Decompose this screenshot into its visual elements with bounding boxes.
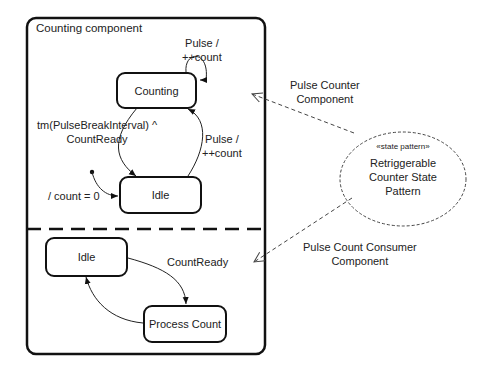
- state-label: Counting: [134, 85, 178, 97]
- idle-to-counting-transition: [188, 109, 203, 176]
- initial-transition-label: / count = 0: [48, 189, 100, 203]
- self-loop-label: Pulse / ++count: [182, 36, 222, 64]
- state-idle-lower[interactable]: Idle: [45, 237, 128, 277]
- counting-to-idle-label: tm(PulseBreakInterval) ^ CountReady: [37, 118, 157, 146]
- idle-to-counting-label: Pulse / ++count: [202, 132, 242, 160]
- lower-role-label: Pulse Count Consumer Component: [303, 240, 417, 268]
- state-label: Idle: [78, 251, 96, 263]
- pattern-stereotype: «state pattern»: [340, 142, 466, 152]
- state-label: Process Count: [149, 318, 221, 330]
- process-to-idle-transition: [86, 277, 143, 323]
- state-label: Idle: [152, 189, 170, 201]
- pattern-name: Retriggerable Counter State Pattern: [340, 156, 466, 198]
- component-title: Counting component: [36, 21, 142, 35]
- state-process-count[interactable]: Process Count: [143, 305, 227, 343]
- upper-role-label: Pulse Counter Component: [290, 78, 360, 106]
- state-counting[interactable]: Counting: [116, 72, 197, 109]
- state-idle-upper[interactable]: Idle: [119, 176, 202, 214]
- idle-to-process-label: CountReady: [167, 255, 228, 269]
